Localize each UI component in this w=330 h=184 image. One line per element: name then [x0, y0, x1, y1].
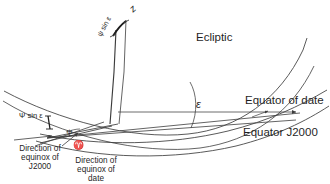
ecliptic-label: Ecliptic	[196, 31, 232, 44]
psi-sin-eps-ecliptic-label: Ψ sin ε	[19, 112, 43, 121]
node-ray-upper	[47, 124, 118, 138]
direction-equinox-date-label: Direction of equinox of date	[57, 156, 135, 184]
equator-j2000-label: Equator J2000	[243, 126, 318, 139]
obliquity-angle-label: ε	[196, 98, 201, 110]
epsilon-arc	[190, 82, 196, 128]
psi-sin-eps-bracket	[48, 116, 50, 129]
precession-diagram: Ecliptic Equator of date Equator J2000 ε…	[0, 0, 330, 184]
pole-axis-j2000	[119, 20, 126, 124]
pole-axis-date	[110, 30, 116, 124]
leader-equinox-j2000	[14, 136, 52, 140]
equator-of-date-label: Equator of date	[245, 94, 324, 107]
psi-sin-eps-pole-arc	[113, 21, 126, 36]
psi-symbol-label: ψ	[67, 128, 72, 136]
